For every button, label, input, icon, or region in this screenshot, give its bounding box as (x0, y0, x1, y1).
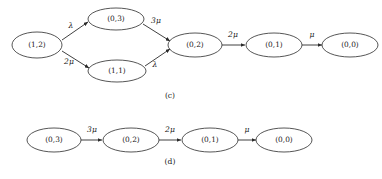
state-label-c-1-1: (1,1) (108, 66, 126, 75)
state-transition-figure: (1,2)(0,3)(1,1)(0,2)(0,1)(0,0)(0,3)(0,2)… (0, 0, 382, 179)
rate-label-d-0-1-to-d-0-0: μ (245, 125, 250, 134)
transition-arrow-c-1-2-to-c-0-3 (62, 22, 88, 40)
rate-label-c-0-2-to-c-0-1: 2μ (227, 30, 238, 39)
transition-arrow-c-0-3-to-c-0-2 (143, 24, 170, 41)
rate-label-c-1-2-to-c-0-3: λ (68, 21, 74, 30)
state-label-d-0-3: (0,3) (45, 135, 63, 144)
panel-caption-d: (d) (165, 157, 176, 166)
rate-label-d-0-2-to-d-0-1: 2μ (164, 125, 175, 134)
panel-caption-c: (c) (165, 91, 175, 100)
state-label-c-0-0: (0,0) (341, 40, 359, 49)
diagram-canvas: (1,2)(0,3)(1,1)(0,2)(0,1)(0,0)(0,3)(0,2)… (0, 0, 382, 179)
state-label-c-1-2: (1,2) (28, 40, 46, 49)
state-label-d-0-1: (0,1) (201, 135, 219, 144)
rate-label-c-1-1-to-c-0-2: λ (152, 60, 158, 69)
state-label-d-0-0: (0,0) (275, 135, 293, 144)
nodes-group: (1,2)(0,3)(1,1)(0,2)(0,1)(0,0)(0,3)(0,2)… (12, 8, 378, 152)
rate-label-c-0-3-to-c-0-2: 3μ (151, 16, 161, 25)
rate-label-c-1-2-to-c-1-1: 2μ (63, 57, 74, 66)
state-label-c-0-2: (0,2) (186, 40, 204, 49)
rate-label-c-0-1-to-c-0-0: μ (310, 30, 315, 39)
state-label-d-0-2: (0,2) (122, 135, 140, 144)
state-label-c-0-3: (0,3) (107, 14, 125, 23)
state-label-c-0-1: (0,1) (265, 40, 283, 49)
rate-label-d-0-3-to-d-0-2: 3μ (87, 125, 97, 134)
transition-arrow-c-1-1-to-c-0-2 (145, 49, 170, 66)
